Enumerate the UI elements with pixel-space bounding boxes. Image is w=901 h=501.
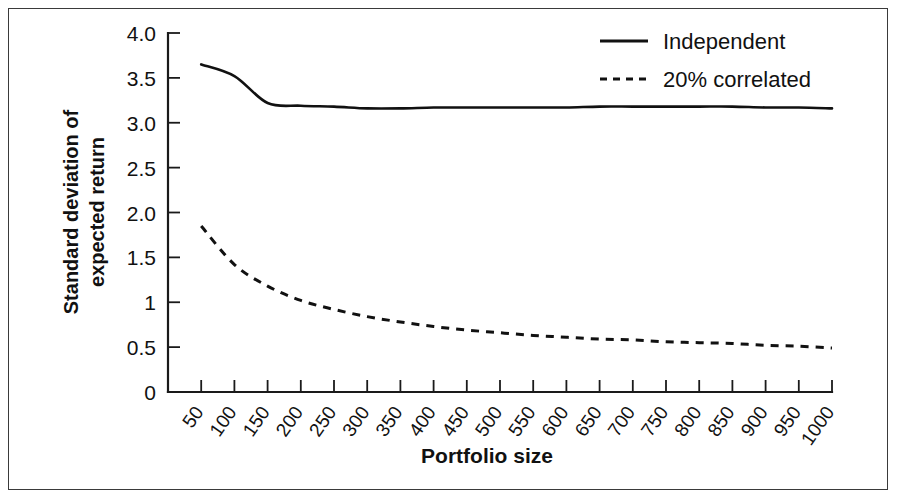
legend-label-20-percent-correlated: 20% correlated [663, 67, 811, 92]
series-line-20-percent-correlated [201, 226, 832, 348]
chart-legend: Independent 20% correlated [600, 29, 811, 92]
y-axis-title-line-2: expected return [86, 137, 108, 287]
y-axis-title-line-1: Standard deviation of [60, 109, 82, 314]
y-axis-tick-label: 4.0 [127, 22, 156, 45]
y-axis-tick-label: 0.5 [127, 336, 156, 359]
x-axis-tick-label: 450 [438, 402, 473, 440]
y-axis-tick-labels: 4.03.53.02.52.01.510.50 [127, 22, 156, 404]
x-axis-tick-label: 250 [305, 402, 340, 440]
x-axis-tick-label: 300 [338, 402, 373, 440]
x-axis-tick-label: 150 [238, 402, 273, 440]
x-axis-tick-label: 50 [178, 402, 207, 431]
y-axis-ticks [168, 33, 180, 392]
y-axis-tick-label: 0 [144, 381, 156, 404]
x-axis-tick-label: 1000 [797, 402, 838, 449]
x-axis-tick-label: 400 [404, 402, 439, 440]
x-axis-tick-label: 650 [570, 402, 605, 440]
x-axis-tick-label: 750 [637, 402, 672, 440]
x-axis-tick-label: 850 [703, 402, 738, 440]
x-axis-tick-label: 700 [604, 402, 639, 440]
x-axis-tick-label: 800 [670, 402, 705, 440]
y-axis-tick-label: 1.5 [127, 246, 156, 269]
y-axis-tick-label: 3.0 [127, 112, 156, 135]
chart-canvas: 4.03.53.02.52.01.510.50 5010015020025030… [0, 0, 901, 501]
y-axis-tick-label: 2.0 [127, 202, 156, 225]
y-axis-tick-label: 3.5 [127, 67, 156, 90]
y-axis-tick-label: 1 [144, 291, 156, 314]
x-axis-tick-label: 100 [205, 402, 240, 440]
x-axis-tick-labels: 5010015020025030035040045050055060065070… [178, 402, 838, 449]
figure-container: 4.03.53.02.52.01.510.50 5010015020025030… [0, 0, 901, 501]
x-axis-title: Portfolio size [421, 444, 553, 467]
x-axis-tick-label: 600 [537, 402, 572, 440]
x-axis-tick-label: 500 [471, 402, 506, 440]
legend-label-independent: Independent [663, 29, 785, 54]
series-group [201, 64, 832, 348]
x-axis-tick-label: 200 [272, 402, 307, 440]
x-axis-tick-label: 350 [371, 402, 406, 440]
x-axis-tick-label: 550 [504, 402, 539, 440]
x-axis-ticks [201, 380, 832, 392]
y-axis-tick-label: 2.5 [127, 157, 156, 180]
x-axis-tick-label: 900 [736, 402, 771, 440]
